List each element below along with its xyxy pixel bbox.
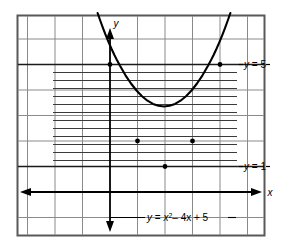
marked-point — [108, 62, 113, 67]
y-axis-label: y — [113, 18, 120, 29]
x-axis-label: x — [267, 187, 274, 198]
graph-figure: y = 5 y = 1 x y y = x2– 4x + 5 — [0, 0, 295, 249]
equation-annotation: y = x2– 4x + 5 — [146, 212, 209, 223]
equation-tail: – 4x + 5 — [172, 212, 208, 223]
marked-point — [218, 62, 223, 67]
marked-point — [163, 164, 168, 169]
label-line-y1: y = 1 — [243, 161, 266, 172]
marked-point — [190, 139, 195, 144]
label-line-y5: y = 5 — [243, 59, 266, 70]
marked-point — [135, 139, 140, 144]
parabola-graph-svg: y = 5 y = 1 x y y = x2– 4x + 5 — [0, 0, 295, 249]
